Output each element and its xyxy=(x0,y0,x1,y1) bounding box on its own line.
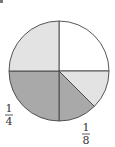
pie-chart: 1814 xyxy=(0,0,115,147)
fraction-numerator: 1 xyxy=(83,121,90,134)
fraction-label-bottom-right-eighth: 18 xyxy=(82,121,90,147)
pie-slice-top-left-quarter xyxy=(9,21,59,71)
fraction-label-bottom-left-quarter: 14 xyxy=(5,102,13,128)
pie-slice-top-right-quarter xyxy=(59,21,109,71)
fraction-denominator: 4 xyxy=(6,115,13,128)
pie-slice-bottom-left-quarter xyxy=(9,71,59,121)
fraction-denominator: 8 xyxy=(83,134,90,147)
fraction-numerator: 1 xyxy=(6,102,13,115)
